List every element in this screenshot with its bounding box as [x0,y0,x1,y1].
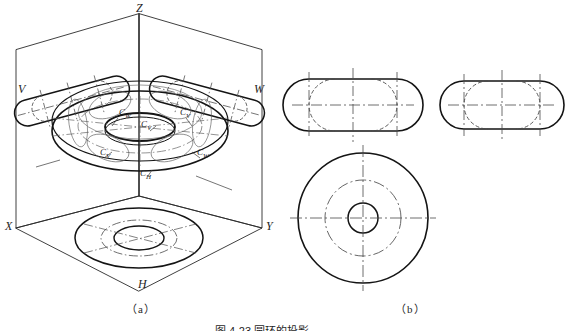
h-plane-label: H [138,277,147,292]
point-label-sub: W [125,112,131,120]
panel-a-sublabel: （a） [126,300,156,316]
point-c-v-center: CV [141,119,151,132]
v-plane-label: V [18,82,25,97]
figure-caption: 图 4-23 圆环的投影 [215,324,309,331]
point-c-w-upper-left: CW [119,107,131,120]
point-label-sub: V [186,112,190,120]
x-axis-label: X [5,219,12,234]
y-axis-label: Y [266,219,273,234]
point-label-sub: V [106,152,110,160]
point-c-v-lower-left: CV [100,147,110,160]
technical-drawing-canvas [0,0,573,331]
point-label-sub: H [146,173,151,181]
point-c-v-upper-right: CV [180,107,190,120]
w-plane-label: W [254,82,264,97]
point-label-sub: V [147,124,151,132]
point-c-w-lower-right: CW [197,147,209,160]
point-c-h-bottom: CH [140,168,151,181]
panel-b-sublabel: （b） [395,300,426,316]
point-label-sub: W [203,152,209,160]
page-background [0,0,573,331]
z-axis-label: Z [136,1,143,16]
